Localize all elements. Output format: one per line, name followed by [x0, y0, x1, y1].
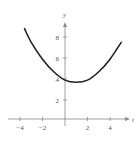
x-axis: t −4 −2 2 4 [8, 116, 135, 132]
y-tick-label: 6 [56, 55, 60, 63]
x-axis-arrow-icon [125, 117, 130, 121]
x-tick-label: −4 [16, 124, 24, 132]
x-tick-label: 4 [108, 124, 112, 132]
data-curve [25, 29, 122, 83]
y-axis-label: y [62, 11, 67, 19]
y-tick-label: 2 [56, 97, 60, 105]
x-tick-label: −2 [39, 124, 47, 132]
x-tick-label: 2 [86, 124, 90, 132]
y-tick-label: 8 [56, 34, 60, 42]
y-axis: y 2 4 6 8 [56, 11, 68, 126]
chart: t −4 −2 2 4 y 2 4 6 8 [0, 0, 140, 141]
x-axis-label: t [132, 116, 135, 124]
y-axis-arrow-icon [63, 22, 67, 27]
